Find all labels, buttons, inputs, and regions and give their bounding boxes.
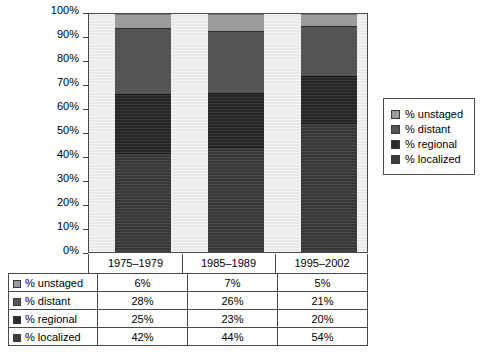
table-cell: 6% xyxy=(98,274,188,292)
legend-item-localized[interactable]: % localized xyxy=(391,153,467,165)
legend-item-unstaged[interactable]: % unstaged xyxy=(391,108,467,120)
table-cell: 54% xyxy=(278,328,368,346)
y-axis: 100% 90% 80% 70% 60% 50% 40% 30% 20% 10%… xyxy=(0,13,88,253)
bar-segment-regional[interactable] xyxy=(208,93,264,148)
legend-label: % localized xyxy=(405,153,461,165)
table-cell: 28% xyxy=(98,292,188,310)
swatch-localized-icon xyxy=(13,334,21,342)
legend-label: % distant xyxy=(405,123,450,135)
table-row: % regional 25% 23% 20% xyxy=(9,310,368,328)
table-cell: 44% xyxy=(188,328,278,346)
legend-swatch-localized-icon xyxy=(391,155,400,164)
bar-segment-unstaged[interactable] xyxy=(301,14,357,26)
swatch-distant-icon xyxy=(13,298,21,306)
table-row-label: % distant xyxy=(25,295,70,307)
bar-segment-distant[interactable] xyxy=(301,26,357,76)
y-tick-label-50: 50% xyxy=(57,125,79,136)
y-tick-label-90: 90% xyxy=(57,29,79,40)
legend-item-regional[interactable]: % regional xyxy=(391,138,467,150)
table-cell: 42% xyxy=(98,328,188,346)
y-tick-label-100: 100% xyxy=(51,5,79,16)
legend-label: % regional xyxy=(405,138,457,150)
x-label-1975-1979: 1975–1979 xyxy=(89,254,182,273)
swatch-unstaged-icon xyxy=(13,280,21,288)
table-row: % localized 42% 44% 54% xyxy=(9,328,368,346)
legend-label: % unstaged xyxy=(405,108,463,120)
swatch-regional-icon xyxy=(13,316,21,324)
y-tick-label-60: 60% xyxy=(57,101,79,112)
legend: % unstaged % distant % regional % locali… xyxy=(383,98,475,175)
table-cell: 25% xyxy=(98,310,188,328)
legend-swatch-distant-icon xyxy=(391,125,400,134)
legend-item-distant[interactable]: % distant xyxy=(391,123,467,135)
y-tick-label-80: 80% xyxy=(57,53,79,64)
bar-column-1985-1989[interactable] xyxy=(208,14,264,252)
x-label-1985-1989: 1985–1989 xyxy=(182,254,275,273)
bar-segment-distant[interactable] xyxy=(208,31,264,93)
bar-segment-localized[interactable] xyxy=(208,147,264,252)
y-tick-label-70: 70% xyxy=(57,77,79,88)
data-table: % unstaged 6% 7% 5% % distant 28% 26% 21… xyxy=(8,273,368,346)
bar-segment-unstaged[interactable] xyxy=(115,14,171,28)
legend-swatch-unstaged-icon xyxy=(391,110,400,119)
x-label-1995-2002: 1995–2002 xyxy=(275,254,369,273)
table-row-label: % unstaged xyxy=(25,277,83,289)
table-row: % unstaged 6% 7% 5% xyxy=(9,274,368,292)
legend-swatch-regional-icon xyxy=(391,140,400,149)
bar-segment-regional[interactable] xyxy=(115,94,171,153)
table-row-label: % localized xyxy=(25,331,81,343)
chart-figure: 100% 90% 80% 70% 60% 50% 40% 30% 20% 10%… xyxy=(0,0,488,352)
plot-area xyxy=(88,13,368,253)
table-cell: 7% xyxy=(188,274,278,292)
plot-wrapper xyxy=(88,13,368,253)
y-tick-label-20: 20% xyxy=(57,197,79,208)
table-cell: 5% xyxy=(278,274,368,292)
bar-column-1975-1979[interactable] xyxy=(115,14,171,252)
table-cell: 20% xyxy=(278,310,368,328)
bar-segment-localized[interactable] xyxy=(115,153,171,252)
y-tick-label-0: 0% xyxy=(63,245,79,256)
bar-segment-regional[interactable] xyxy=(301,76,357,124)
y-tick-label-30: 30% xyxy=(57,173,79,184)
table-row: % distant 28% 26% 21% xyxy=(9,292,368,310)
table-cell: 26% xyxy=(188,292,278,310)
table-row-header-regional: % regional xyxy=(9,310,98,328)
table-cell: 21% xyxy=(278,292,368,310)
bar-segment-distant[interactable] xyxy=(115,28,171,94)
table-row-label: % regional xyxy=(25,313,77,325)
bar-column-1995-2002[interactable] xyxy=(301,14,357,252)
bar-segment-unstaged[interactable] xyxy=(208,14,264,31)
table-row-header-distant: % distant xyxy=(9,292,98,310)
y-tick-label-40: 40% xyxy=(57,149,79,160)
table-cell: 23% xyxy=(188,310,278,328)
x-axis-labels: 1975–1979 1985–1989 1995–2002 xyxy=(88,254,368,273)
y-tick-label-10: 10% xyxy=(57,221,79,232)
table-row-header-localized: % localized xyxy=(9,328,98,346)
bar-segment-localized[interactable] xyxy=(301,123,357,252)
table-row-header-unstaged: % unstaged xyxy=(9,274,98,292)
